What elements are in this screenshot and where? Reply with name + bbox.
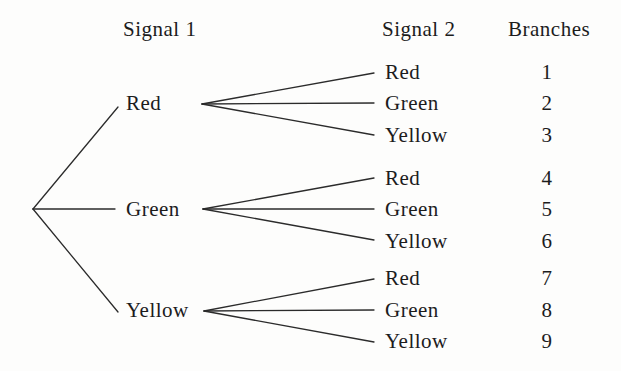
branch-number-1: 1 xyxy=(527,59,567,85)
header-branches: Branches xyxy=(508,16,590,42)
signal2-node-red-red: Red xyxy=(385,59,420,85)
signal2-node-yellow-green: Green xyxy=(385,297,439,323)
signal2-node-green-yellow: Yellow xyxy=(385,228,448,254)
edge-red-yellow xyxy=(202,104,374,135)
signal2-node-green-green: Green xyxy=(385,196,439,222)
edge-green-yellow xyxy=(203,209,374,240)
signal2-node-green-red: Red xyxy=(385,165,420,191)
edge-yellow-yellow xyxy=(204,311,374,342)
header-signal2: Signal 2 xyxy=(382,16,455,42)
branch-number-6: 6 xyxy=(527,228,567,254)
tree-diagram: Signal 1 Signal 2 Branches Red Green Yel… xyxy=(0,0,621,371)
edge-root-red xyxy=(33,107,118,209)
signal1-node-green: Green xyxy=(126,196,180,222)
signal1-node-red: Red xyxy=(126,90,161,116)
signal2-node-yellow-yellow: Yellow xyxy=(385,328,448,354)
signal2-node-red-green: Green xyxy=(385,90,439,116)
branch-number-2: 2 xyxy=(527,90,567,116)
edge-yellow-green xyxy=(204,310,374,311)
edge-green-red xyxy=(203,178,374,209)
branch-number-8: 8 xyxy=(527,297,567,323)
edge-red-red xyxy=(202,73,374,104)
edge-root-yellow xyxy=(33,209,118,312)
edge-yellow-red xyxy=(204,279,374,311)
branch-number-9: 9 xyxy=(527,328,567,354)
header-signal1: Signal 1 xyxy=(123,16,196,42)
signal1-node-yellow: Yellow xyxy=(126,297,189,323)
signal2-node-yellow-red: Red xyxy=(385,265,420,291)
branch-number-5: 5 xyxy=(527,196,567,222)
edge-red-green xyxy=(202,103,374,104)
branch-number-7: 7 xyxy=(527,265,567,291)
branch-number-4: 4 xyxy=(527,165,567,191)
signal2-node-red-yellow: Yellow xyxy=(385,122,448,148)
branch-number-3: 3 xyxy=(527,122,567,148)
